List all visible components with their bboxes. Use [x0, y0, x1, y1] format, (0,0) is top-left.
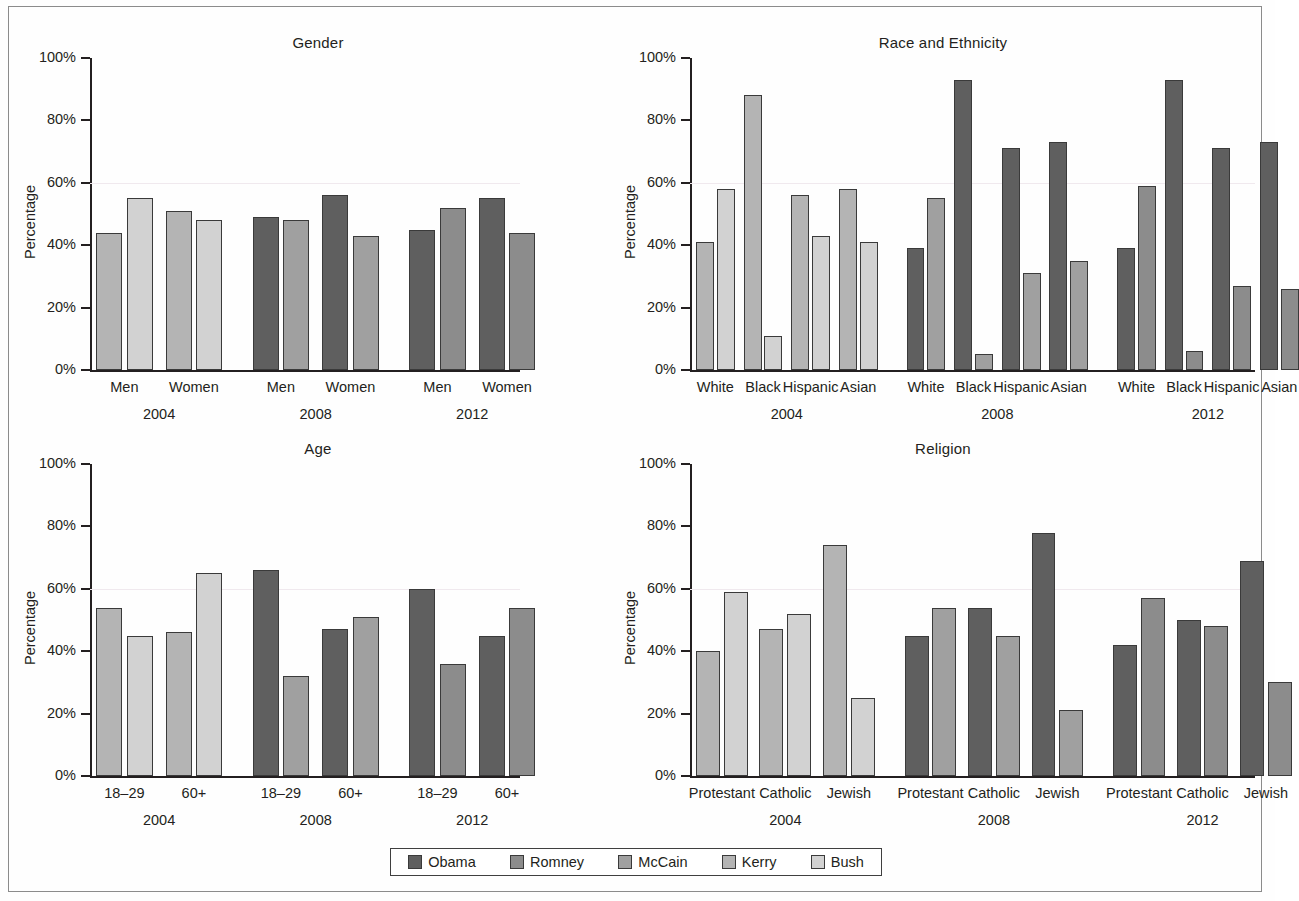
- bar: [1177, 620, 1201, 776]
- legend-item-kerry: Kerry: [722, 854, 777, 870]
- legend-item-romney: Romney: [510, 854, 584, 870]
- bar: [1281, 289, 1299, 370]
- bar: [1212, 148, 1230, 370]
- bar: [1260, 142, 1278, 370]
- bar: [440, 664, 466, 776]
- legend-item-mccain: McCain: [618, 854, 687, 870]
- chart-legend: ObamaRomneyMcCainKerryBush: [390, 848, 882, 876]
- legend-swatch-icon: [510, 855, 524, 869]
- bar: [823, 545, 847, 776]
- legend-item-obama: Obama: [408, 854, 476, 870]
- bar: [322, 629, 348, 776]
- bar: [1165, 80, 1183, 370]
- legend-label: Romney: [530, 854, 584, 870]
- bar: [724, 592, 748, 776]
- legend-item-bush: Bush: [811, 854, 864, 870]
- chart-panel-age: Age0%20%40%60%80%100%Percentage18–2960+2…: [18, 440, 618, 840]
- legend-label: Bush: [831, 854, 864, 870]
- chart-panel-religion: Religion0%20%40%60%80%100%PercentageProt…: [618, 440, 1268, 840]
- bar: [905, 636, 929, 776]
- legend-label: McCain: [638, 854, 687, 870]
- bar: [166, 211, 192, 370]
- bar: [851, 698, 875, 776]
- legend-swatch-icon: [811, 855, 825, 869]
- bar: [96, 233, 122, 370]
- bar: [839, 189, 857, 370]
- bar: [1049, 142, 1067, 370]
- legend-swatch-icon: [722, 855, 736, 869]
- bar: [968, 608, 992, 776]
- bar: [353, 236, 379, 370]
- legend-label: Obama: [428, 854, 476, 870]
- bars-layer: [18, 34, 618, 434]
- bar: [253, 570, 279, 776]
- bar: [283, 676, 309, 776]
- bar: [764, 336, 782, 370]
- bar: [996, 636, 1020, 776]
- bar: [1117, 248, 1135, 370]
- bar: [759, 629, 783, 776]
- legend-swatch-icon: [408, 855, 422, 869]
- bar: [1186, 351, 1204, 370]
- bar: [509, 233, 535, 370]
- bar: [1204, 626, 1228, 776]
- bar: [1141, 598, 1165, 776]
- bar: [791, 195, 809, 370]
- chart-panel-race-and-ethnicity: Race and Ethnicity0%20%40%60%80%100%Perc…: [618, 34, 1268, 434]
- bar: [1233, 286, 1251, 370]
- bars-layer: [18, 440, 618, 840]
- bar: [1059, 710, 1083, 776]
- bar: [127, 636, 153, 776]
- bar: [907, 248, 925, 370]
- bar: [127, 198, 153, 370]
- bar: [787, 614, 811, 776]
- bar: [696, 242, 714, 370]
- bar: [283, 220, 309, 370]
- bar: [1268, 682, 1292, 776]
- bar: [696, 651, 720, 776]
- bars-layer: [618, 440, 1268, 840]
- bars-layer: [618, 34, 1268, 434]
- bar: [1023, 273, 1041, 370]
- bar: [744, 95, 762, 370]
- bar: [479, 198, 505, 370]
- bar: [954, 80, 972, 370]
- bar: [1070, 261, 1088, 370]
- bar: [1002, 148, 1020, 370]
- bar: [717, 189, 735, 370]
- bar: [932, 608, 956, 776]
- bar: [975, 354, 993, 370]
- bar: [1113, 645, 1137, 776]
- legend-label: Kerry: [742, 854, 777, 870]
- bar: [812, 236, 830, 370]
- bar: [1032, 533, 1056, 776]
- bar: [860, 242, 878, 370]
- bar: [409, 230, 435, 370]
- panel-grid: Gender0%20%40%60%80%100%PercentageMenWom…: [0, 0, 1275, 838]
- bar: [1138, 186, 1156, 370]
- bar: [253, 217, 279, 370]
- chart-panel-gender: Gender0%20%40%60%80%100%PercentageMenWom…: [18, 34, 618, 434]
- bar: [322, 195, 348, 370]
- legend-swatch-icon: [618, 855, 632, 869]
- bar: [1240, 561, 1264, 776]
- bar: [353, 617, 379, 776]
- bar: [927, 198, 945, 370]
- bar: [196, 220, 222, 370]
- bar: [96, 608, 122, 776]
- bar: [196, 573, 222, 776]
- bar: [479, 636, 505, 776]
- bar: [440, 208, 466, 370]
- bar: [166, 632, 192, 776]
- bar: [509, 608, 535, 776]
- bar: [409, 589, 435, 776]
